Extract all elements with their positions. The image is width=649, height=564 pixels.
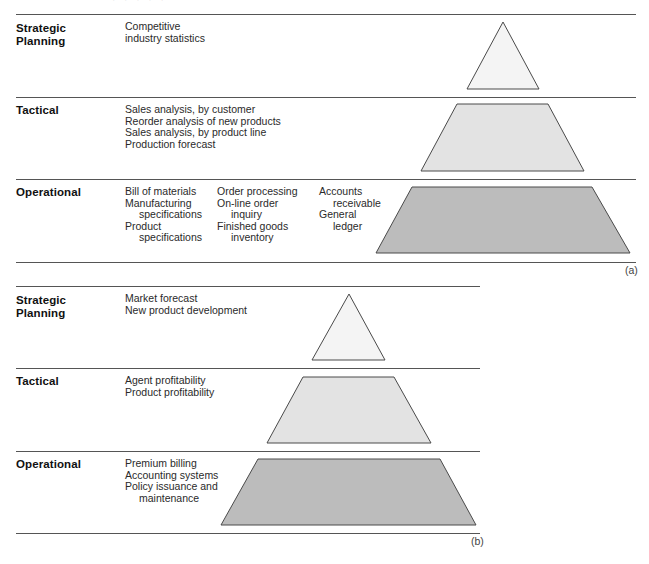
tactical-items: Agent profitability Product profitabilit… bbox=[125, 375, 214, 398]
level-label-line: Operational bbox=[16, 458, 81, 471]
tactical-trapezoid-a bbox=[421, 104, 584, 171]
level-label-strategic: Strategic Planning bbox=[16, 294, 66, 319]
level-label-line: Strategic bbox=[16, 22, 66, 35]
panel-b-caption: (b) bbox=[471, 535, 484, 547]
list-item: Premium billing bbox=[125, 458, 218, 470]
operational-trapezoid-a bbox=[376, 187, 630, 253]
level-label-tactical: Tactical bbox=[16, 104, 59, 117]
level-label-operational: Operational bbox=[16, 186, 81, 199]
divider-line bbox=[16, 179, 636, 180]
pyramid-shapes bbox=[0, 0, 649, 564]
level-label-operational: Operational bbox=[16, 458, 81, 471]
list-item: industry statistics bbox=[125, 33, 205, 45]
divider-line bbox=[16, 262, 636, 263]
cropped-header-text: · · · · · bbox=[112, 0, 167, 5]
divider-line bbox=[16, 97, 636, 98]
list-item-continuation: ledger bbox=[319, 221, 381, 233]
list-item: Production forecast bbox=[125, 139, 281, 151]
operational-items: Premium billing Accounting systems Polic… bbox=[125, 458, 218, 504]
tactical-trapezoid-b bbox=[267, 377, 431, 443]
list-item-continuation: specifications bbox=[125, 232, 202, 244]
level-label-tactical: Tactical bbox=[16, 375, 59, 388]
divider-line bbox=[16, 368, 480, 369]
divider-line bbox=[16, 533, 480, 534]
level-label-line: Tactical bbox=[16, 375, 59, 388]
strategic-items: Market forecast New product development bbox=[125, 293, 247, 316]
level-label-line: Tactical bbox=[16, 104, 59, 117]
list-item-continuation: inventory bbox=[217, 232, 298, 244]
level-label-line: Planning bbox=[16, 307, 66, 320]
level-label-line: Operational bbox=[16, 186, 81, 199]
list-item: Product profitability bbox=[125, 387, 214, 399]
operational-items-col-2: Order processing On-line order inquiry F… bbox=[217, 186, 298, 244]
operational-items-col-1: Bill of materials Manufacturing specific… bbox=[125, 186, 202, 244]
divider-line bbox=[16, 286, 480, 287]
strategic-triangle-b bbox=[312, 294, 385, 360]
divider-line bbox=[16, 451, 480, 452]
operational-trapezoid-b bbox=[221, 459, 476, 525]
panel-a-caption: (a) bbox=[625, 264, 638, 276]
level-label-line: Planning bbox=[16, 35, 66, 48]
strategic-items: Competitive industry statistics bbox=[125, 21, 205, 44]
divider-line bbox=[16, 14, 636, 15]
list-item: Agent profitability bbox=[125, 375, 214, 387]
level-label-strategic: Strategic Planning bbox=[16, 22, 66, 47]
list-item: Bill of materials bbox=[125, 186, 202, 198]
list-item-continuation: maintenance bbox=[125, 493, 218, 505]
list-item: Competitive bbox=[125, 21, 205, 33]
list-item: Accounts bbox=[319, 186, 381, 198]
tactical-items: Sales analysis, by customer Reorder anal… bbox=[125, 104, 281, 150]
list-item: Order processing bbox=[217, 186, 298, 198]
list-item: Market forecast bbox=[125, 293, 247, 305]
list-item: New product development bbox=[125, 305, 247, 317]
level-label-line: Strategic bbox=[16, 294, 66, 307]
operational-items-col-3: Accounts receivable General ledger bbox=[319, 186, 381, 232]
strategic-triangle-a bbox=[467, 22, 539, 89]
list-item: Sales analysis, by customer bbox=[125, 104, 281, 116]
